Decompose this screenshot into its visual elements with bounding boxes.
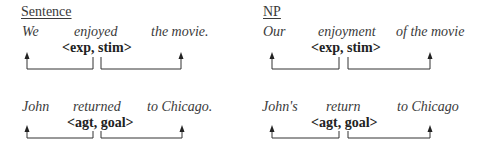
arrow-goal-chicago [101,125,185,138]
arrow-stim-movie [101,52,184,69]
arrow-exp-our [270,52,340,69]
arrow-agt-johns [270,125,340,138]
arrow-agt-john [25,125,94,138]
arrow-goal-chicago-np [348,125,433,138]
arrow-exp-we [25,52,94,69]
linking-arrows [0,0,480,150]
arrow-stim-movie-np [348,52,433,69]
